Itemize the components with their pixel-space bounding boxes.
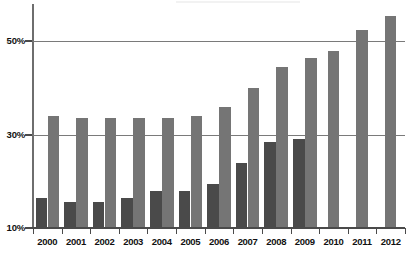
x-tick-2004 [176,228,177,234]
x-tick-2008 [291,228,292,234]
bar-dark-2003 [121,198,133,228]
bar-light-2009 [305,58,317,228]
y-axis-label: 30% [0,130,25,140]
bar-light-2000 [48,116,60,228]
x-tick-2012 [405,228,406,234]
bar-dark-2008 [264,142,276,228]
x-axis-label-2010: 2010 [319,236,348,247]
bar-light-2012 [385,16,397,228]
top-edge-artifact [176,1,300,3]
x-tick-2003 [147,228,148,234]
bar-light-2007 [248,88,260,228]
x-axis-label-2004: 2004 [147,236,176,247]
bar-dark-2004 [150,191,162,228]
bar-dark-2001 [64,202,76,228]
bar-light-2006 [219,107,231,228]
bar-light-2001 [76,118,88,228]
bar-dark-2009 [293,139,305,228]
bar-dark-2002 [93,202,105,228]
bar-light-2002 [105,118,117,228]
x-tick-2002 [119,228,120,234]
y-axis-label: 10% [0,223,25,233]
x-axis-label-2005: 2005 [176,236,205,247]
x-axis-label-2006: 2006 [205,236,234,247]
gridline-50 [33,41,405,42]
x-axis-label-2003: 2003 [119,236,148,247]
x-axis-line [32,227,405,229]
x-axis-label-2011: 2011 [348,236,377,247]
bar-dark-2005 [179,191,191,228]
bar-chart: 10%30%50% 200020012002200320042005200620… [0,0,409,259]
bar-light-2010 [328,51,340,228]
x-axis-label-2001: 2001 [62,236,91,247]
x-tick-2009 [319,228,320,234]
bar-light-2004 [162,118,174,228]
bar-light-2005 [191,116,203,228]
bar-light-2008 [276,67,288,228]
y-axis-labels: 10%30%50% [0,0,25,259]
x-tick-2007 [262,228,263,234]
bar-dark-2007 [236,163,248,228]
y-axis-label: 50% [0,36,25,46]
bar-dark-2000 [36,198,48,228]
bar-dark-2006 [207,184,219,228]
x-tick-2001 [90,228,91,234]
x-tick-2000 [62,228,63,234]
x-axis-label-2000: 2000 [33,236,62,247]
x-axis-label-2012: 2012 [376,236,405,247]
x-axis-label-2002: 2002 [90,236,119,247]
x-tick-2010 [348,228,349,234]
x-tick-2006 [233,228,234,234]
x-tick-2005 [205,228,206,234]
x-axis-label-2009: 2009 [291,236,320,247]
bar-light-2003 [133,118,145,228]
x-tick-2011 [376,228,377,234]
x-axis-label-2007: 2007 [233,236,262,247]
x-tick-origin [33,228,34,234]
bar-light-2011 [356,30,368,228]
x-axis-label-2008: 2008 [262,236,291,247]
plot-area [33,4,405,228]
